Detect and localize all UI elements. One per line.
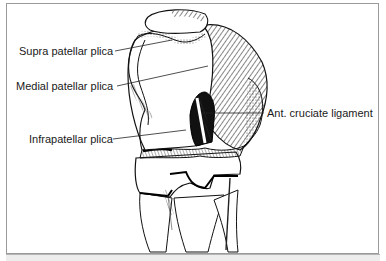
label-supra-patellar-plica: Supra patellar plica: [19, 45, 113, 57]
label-medial-patellar-plica: Medial patellar plica: [16, 80, 113, 92]
label-infrapatellar-plica: Infrapatellar plica: [29, 133, 113, 145]
label-ant-cruciate-ligament: Ant. cruciate ligament: [267, 107, 373, 119]
tibia: [140, 190, 238, 252]
